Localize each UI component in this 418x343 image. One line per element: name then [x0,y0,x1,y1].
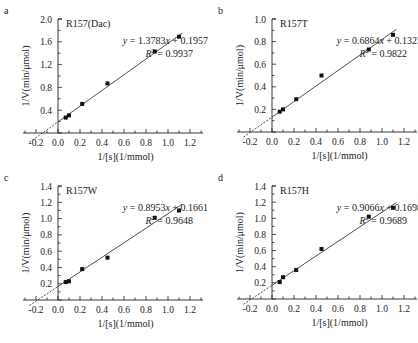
panel-letter: c [4,172,9,183]
y-tick-label: 0.2 [254,278,266,288]
data-point [281,107,285,111]
y-tick-label: 1.0 [40,214,52,224]
x-tick-label: 0.4 [310,137,322,147]
x-tick-label: 1.2 [398,137,410,147]
x-axis-title: 1/[s](1/mmol) [97,151,153,163]
x-tick-label: 0.4 [96,305,108,315]
x-tick-label: 0.6 [118,138,130,148]
y-tick-label: 2.0 [40,15,52,25]
x-axis-title: 1/[s](1/mmol) [311,317,367,329]
x-tick-label: 1.0 [162,138,174,148]
y-axis-title: 1/V(min/μmol) [234,212,246,273]
y-tick-label: 1.2 [40,60,52,70]
y-tick-label: 1.4 [254,182,266,192]
panel-letter: a [4,5,9,16]
x-tick-label: 1.2 [184,305,196,315]
x-tick-label: 0.2 [74,138,86,148]
series-name: R157H [280,185,309,196]
x-axis-title: 1/[s](1/mmol) [311,150,367,162]
series-name: R157T [280,18,308,29]
y-tick-label: 0.8 [40,230,52,240]
y-axis-title: 1/V(min/μmol) [234,45,246,106]
y-axis-title: 1/V(min/μmol) [20,46,32,107]
panel-letter: b [218,5,223,16]
y-tick-label: 0.4 [254,262,266,272]
x-tick-label: -0.2 [28,305,43,315]
regression-equation: y = 1.3783x + 0.1957 [122,35,208,46]
r-squared-label: R2 = 0.9937 [145,47,194,59]
series-name: R157(Dac) [66,18,110,30]
y-tick-label: 0.2 [254,105,266,115]
data-point [320,247,324,251]
x-axis-title: 1/[s](1/mmol) [97,318,153,330]
data-point [320,74,324,78]
r-squared-label: R2 = 0.9689 [359,214,408,226]
chart-panel-a: a-0.20.00.20.40.60.81.01.20.40.81.21.62.… [4,5,208,163]
y-tick-label: 1.2 [40,198,52,208]
y-tick-label: 1.4 [40,182,52,192]
y-tick-label: 0.4 [254,82,266,92]
x-tick-label: 0.0 [266,304,278,314]
data-point [281,275,285,279]
series-name: R157W [66,185,98,196]
x-tick-label: 0.0 [266,137,278,147]
x-tick-label: 0.8 [354,304,366,314]
x-tick-label: 1.2 [184,138,196,148]
x-tick-label: 0.6 [332,137,344,147]
y-tick-label: 0.6 [40,247,52,257]
x-tick-label: 0.6 [332,304,344,314]
x-tick-label: -0.2 [28,138,43,148]
x-tick-label: 0.0 [52,138,64,148]
x-tick-label: 0.8 [140,305,152,315]
regression-equation: y = 0.6864x + 0.1323 [336,35,418,46]
x-tick-label: 0.2 [74,305,86,315]
x-tick-label: 1.0 [376,304,388,314]
y-tick-label: 0.2 [40,279,52,289]
panel-letter: d [218,172,223,183]
x-tick-label: 0.8 [140,138,152,148]
y-tick-label: 1.0 [254,214,266,224]
x-tick-label: 1.0 [376,137,388,147]
y-tick-label: 0.4 [40,263,52,273]
figure-canvas: a-0.20.00.20.40.60.81.01.20.40.81.21.62.… [0,0,418,343]
data-point [80,102,84,106]
regression-equation: y = 0.9066x + 0.1698 [336,202,418,213]
data-point [106,256,110,260]
x-tick-label: 0.2 [288,304,300,314]
y-tick-label: 0.4 [40,106,52,116]
data-point [80,267,84,271]
regression-equation: y = 0.8953x + 0.1661 [122,202,208,213]
y-tick-label: 1.2 [254,198,266,208]
y-tick-label: 0.8 [254,37,266,47]
y-tick-label: 0.6 [254,246,266,256]
y-tick-label: 0.6 [254,60,266,70]
y-axis-title: 1/V(min/μmol) [20,213,32,274]
data-point [294,268,298,272]
y-tick-label: 0.8 [40,83,52,93]
data-point [278,280,282,284]
regression-line [58,33,182,122]
x-tick-label: 1.0 [162,305,174,315]
regression-line-extrapolated [243,117,272,137]
r-squared-label: R2 = 0.9822 [359,47,408,59]
data-point [67,279,71,283]
x-tick-label: 0.0 [52,305,64,315]
y-tick-label: 0.8 [254,230,266,240]
chart-panel-d: d-0.20.00.20.40.60.81.01.20.20.40.60.81.… [218,172,418,329]
data-point [67,113,71,117]
x-tick-label: 0.2 [288,137,300,147]
x-tick-label: 1.2 [398,304,410,314]
x-tick-label: -0.2 [242,137,257,147]
chart-panel-b: b-0.20.00.20.40.60.81.01.20.20.40.60.81.… [218,5,418,162]
data-point [294,97,298,101]
y-tick-label: 1.0 [254,15,266,25]
chart-panel-c: c-0.20.00.20.40.60.81.01.20.20.40.60.81.… [4,172,208,330]
data-point [106,81,110,85]
regression-line-extrapolated [29,286,58,305]
x-tick-label: 0.4 [96,138,108,148]
x-tick-label: 0.4 [310,304,322,314]
x-tick-label: 0.8 [354,137,366,147]
y-tick-label: 1.6 [40,37,52,47]
x-tick-label: -0.2 [242,304,257,314]
x-tick-label: 0.6 [118,305,130,315]
